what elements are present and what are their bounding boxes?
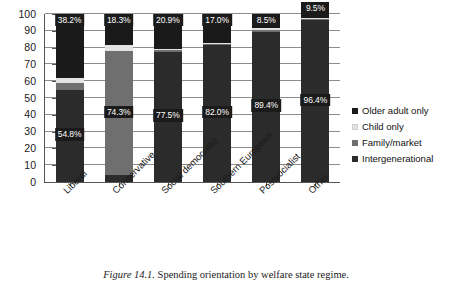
legend-swatch-icon <box>352 124 358 130</box>
bar-segment[interactable] <box>203 43 231 44</box>
bar-data-label: 77.5% <box>153 109 183 122</box>
bar-segment[interactable] <box>301 18 329 19</box>
chart-legend: Older adult onlyChild onlyFamily/marketI… <box>352 103 450 167</box>
y-axis-tick-label: 90 <box>24 25 36 36</box>
legend-swatch-icon <box>352 108 358 114</box>
y-axis-tick-label: 60 <box>24 76 36 87</box>
legend-item-label: Older adult only <box>362 105 429 116</box>
bar-segment[interactable] <box>105 45 133 51</box>
figure-caption: Figure 14.1. Spending orientation by wel… <box>0 268 452 281</box>
bar-data-label: 74.3% <box>104 106 134 119</box>
bar-data-label: 54.8% <box>55 128 85 141</box>
y-axis-tick-label: 40 <box>24 109 36 120</box>
stacked-bar[interactable] <box>203 14 231 182</box>
stacked-bar[interactable] <box>105 14 133 182</box>
bar-data-label: 96.4% <box>301 94 331 107</box>
stacked-bar[interactable] <box>252 14 280 182</box>
y-axis: 0102030405060708090100 <box>12 8 40 189</box>
bar-data-label: 20.9% <box>153 14 183 27</box>
legend-item-label: Intergenerational <box>362 153 433 164</box>
legend-item[interactable]: Older adult only <box>352 103 450 118</box>
stacked-bar[interactable] <box>154 14 182 182</box>
bar-data-label: 9.5% <box>303 2 328 15</box>
figure-caption-text: Spending orientation by welfare state re… <box>158 269 349 280</box>
figure-caption-label: Figure 14.1. <box>103 269 155 280</box>
y-axis-tick-label: 70 <box>24 59 36 70</box>
figure-container: 0102030405060708090100 54.8%38.2%74.3%18… <box>0 0 452 288</box>
bar-data-label: 82.0% <box>202 106 232 119</box>
bar-data-label: 38.2% <box>55 14 85 27</box>
bar-data-label: 89.4% <box>251 99 281 112</box>
bar-segment[interactable] <box>154 49 182 50</box>
bar-data-label: 17.0% <box>202 14 232 27</box>
legend-item-label: Family/market <box>362 137 422 148</box>
bar-segment[interactable] <box>252 30 280 32</box>
legend-item-label: Child only <box>362 121 404 132</box>
y-axis-tick-label: 0 <box>30 177 36 188</box>
y-axis-tick-label: 30 <box>24 126 36 137</box>
y-axis-tick-label: 10 <box>24 160 36 171</box>
x-axis: LiberalConservativeSocial democraticSout… <box>44 188 344 236</box>
y-axis-tick-label: 20 <box>24 143 36 154</box>
bar-segment[interactable] <box>203 44 231 45</box>
y-axis-tick-label: 50 <box>24 93 36 104</box>
legend-swatch-icon <box>352 140 358 146</box>
bar-segment[interactable] <box>56 83 84 90</box>
legend-swatch-icon <box>352 156 358 162</box>
bar-segment[interactable] <box>301 19 329 20</box>
stacked-bar[interactable] <box>56 14 84 182</box>
bar-segment[interactable] <box>56 78 84 83</box>
bar-data-label: 8.5% <box>254 14 279 27</box>
bar-segment[interactable] <box>252 28 280 30</box>
bar-segment[interactable] <box>154 50 182 52</box>
y-axis-tick-label: 80 <box>24 42 36 53</box>
bar-group: 54.8%38.2% <box>45 14 94 182</box>
bar-data-label: 18.3% <box>104 14 134 27</box>
y-axis-tick-label: 100 <box>18 9 36 20</box>
legend-item[interactable]: Intergenerational <box>352 151 450 166</box>
legend-item[interactable]: Child only <box>352 119 450 134</box>
bar-group: 74.3%18.3% <box>94 14 143 182</box>
legend-item[interactable]: Family/market <box>352 135 450 150</box>
